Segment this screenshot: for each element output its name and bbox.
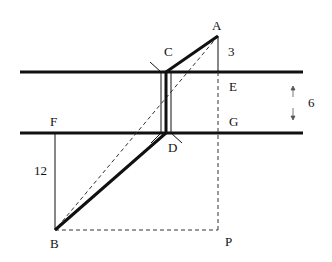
label-C: C [164, 44, 173, 59]
bridge-diagram: A C E G D F B P 3 12 6 [0, 0, 332, 262]
width-arrow-icon [291, 86, 295, 120]
label-A: A [212, 18, 222, 33]
label-B: B [50, 236, 59, 251]
label-E: E [229, 79, 237, 94]
measure-river-width: 6 [308, 95, 315, 110]
label-D: D [168, 140, 177, 155]
measure-FB: 12 [34, 163, 47, 178]
label-F: F [50, 114, 57, 129]
label-P: P [225, 234, 232, 249]
measure-AE: 3 [228, 44, 235, 59]
label-G: G [229, 114, 238, 129]
